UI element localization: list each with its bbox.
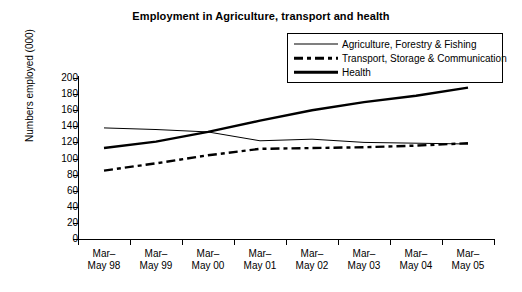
x-tick — [442, 239, 443, 245]
x-tick — [390, 239, 391, 245]
chart-title: Employment in Agriculture, transport and… — [0, 10, 522, 22]
series-lines — [78, 78, 494, 239]
y-tick-label: 200 — [32, 73, 78, 83]
legend: Agriculture, Forestry & Fishing Transpor… — [287, 33, 503, 83]
x-tick-label: Mar–May 03 — [334, 248, 394, 272]
line-chart: Employment in Agriculture, transport and… — [0, 0, 522, 292]
x-tick — [234, 239, 235, 245]
legend-label: Health — [342, 67, 371, 78]
x-tick-label: Mar–May 05 — [438, 248, 498, 272]
y-tick-label: 80 — [32, 170, 78, 180]
y-tick-label: 140 — [32, 121, 78, 131]
series-line — [104, 143, 468, 170]
y-tick-label: 100 — [32, 154, 78, 164]
x-tick-label: Mar–May 04 — [386, 248, 446, 272]
y-tick-label: 40 — [32, 202, 78, 212]
x-tick — [286, 239, 287, 245]
x-tick-label: Mar–May 99 — [126, 248, 186, 272]
y-tick-label: 120 — [32, 137, 78, 147]
legend-key-thin-solid-icon — [294, 39, 338, 49]
legend-key-dash-dot-icon — [294, 53, 338, 63]
x-tick — [182, 239, 183, 245]
x-tick-label: Mar–May 00 — [178, 248, 238, 272]
x-tick-label: Mar–May 02 — [282, 248, 342, 272]
y-tick-label: 20 — [32, 218, 78, 228]
y-tick-label: 160 — [32, 105, 78, 115]
legend-item-agriculture: Agriculture, Forestry & Fishing — [288, 37, 502, 51]
x-tick-label: Mar–May 98 — [74, 248, 134, 272]
x-tick — [494, 239, 495, 245]
legend-label: Transport, Storage & Communication — [342, 53, 507, 64]
y-tick-label: 180 — [32, 89, 78, 99]
series-line — [104, 88, 468, 148]
legend-item-health: Health — [288, 65, 502, 79]
y-tick-label: 0 — [32, 234, 78, 244]
plot-area — [78, 78, 494, 239]
x-tick — [338, 239, 339, 245]
legend-label: Agriculture, Forestry & Fishing — [342, 39, 477, 50]
legend-key-thick-solid-icon — [294, 67, 338, 77]
legend-item-transport: Transport, Storage & Communication — [288, 51, 502, 65]
x-tick — [130, 239, 131, 245]
y-tick-label: 60 — [32, 186, 78, 196]
x-tick-label: Mar–May 01 — [230, 248, 290, 272]
x-tick — [78, 239, 79, 245]
